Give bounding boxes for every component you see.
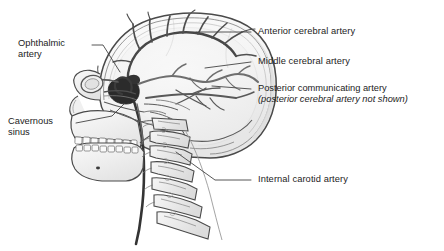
label-ophthalmic-artery: Ophthalmic artery [18, 38, 65, 61]
label-posterior-communicating-artery-line2: (posterior cerebral artery not shown) [258, 94, 408, 105]
label-middle-cerebral-artery: Middle cerebral artery [258, 56, 350, 67]
label-posterior-communicating-artery-line1: Posterior communicating artery [258, 83, 408, 94]
label-ophthalmic-artery-line1: Ophthalmic [18, 38, 65, 49]
label-cavernous-sinus-line1: Cavernous [8, 116, 53, 127]
skull-artery-illustration [0, 0, 444, 251]
label-anterior-cerebral-artery: Anterior cerebral artery [258, 26, 355, 37]
label-posterior-communicating-artery: Posterior communicating artery (posterio… [258, 83, 408, 106]
label-ophthalmic-artery-line2: artery [18, 49, 65, 60]
label-internal-carotid-artery: Internal carotid artery [258, 174, 348, 185]
label-cavernous-sinus-line2: sinus [8, 127, 53, 138]
label-cavernous-sinus: Cavernous sinus [8, 116, 53, 139]
anatomical-figure: Ophthalmic artery Cavernous sinus Anteri… [0, 0, 444, 251]
